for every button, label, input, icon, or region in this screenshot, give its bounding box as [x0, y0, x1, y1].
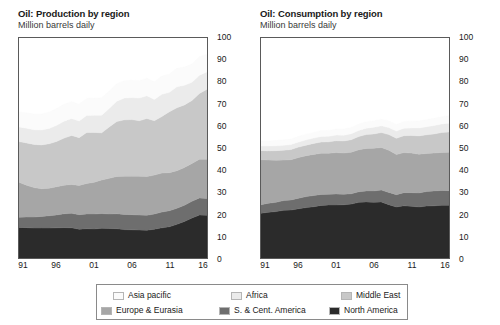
legend-label-europe-eurasia: Europe & Eurasia: [116, 306, 183, 315]
legend-swatch-africa: [231, 292, 242, 300]
consumption-y-tick: 20: [459, 210, 468, 219]
legend-label-africa: Africa: [246, 291, 268, 300]
consumption-chart-subtitle: Million barrels daily: [260, 20, 337, 30]
legend-swatch-europe-eurasia: [101, 307, 112, 315]
production-x-tick: 01: [89, 261, 98, 270]
legend-label-asia-pacific: Asia pacific: [128, 291, 171, 300]
production-chart-title: Oil: Production by region: [18, 8, 130, 19]
production-x-axis: 919601061116: [18, 261, 208, 275]
production-y-tick: 0: [217, 255, 222, 264]
production-y-tick: 100: [217, 33, 231, 42]
chart-legend: Asia pacific Africa Middle East Europe &…: [96, 284, 408, 320]
consumption-y-tick: 70: [459, 99, 468, 108]
legend-item-asia-pacific: Asia pacific: [101, 291, 231, 300]
legend-item-north-america: North America: [329, 306, 398, 315]
legend-label-s-cent-america: S. & Cent. America: [234, 306, 306, 315]
consumption-x-tick: 91: [260, 261, 269, 270]
production-chart-panel: Oil: Production by region Million barrel…: [0, 0, 250, 282]
consumption-y-tick: 30: [459, 188, 468, 197]
production-x-tick: 91: [18, 261, 27, 270]
legend-item-europe-eurasia: Europe & Eurasia: [101, 306, 219, 315]
consumption-y-tick: 40: [459, 166, 468, 175]
legend-row-bottom: Europe & Eurasia S. & Cent. America Nort…: [101, 303, 403, 318]
production-y-axis: 1009080706050403020100: [211, 37, 251, 259]
production-y-tick: 70: [217, 99, 226, 108]
consumption-y-tick: 60: [459, 122, 468, 131]
consumption-x-tick: 16: [440, 261, 449, 270]
production-y-tick: 20: [217, 210, 226, 219]
consumption-plot-area: [260, 37, 450, 259]
legend-item-africa: Africa: [231, 291, 341, 300]
production-chart-subtitle: Million barrels daily: [18, 20, 95, 30]
production-y-tick: 10: [217, 233, 226, 242]
production-plot-area: [18, 37, 208, 259]
consumption-x-tick: 11: [408, 261, 417, 270]
production-y-tick: 60: [217, 122, 226, 131]
consumption-y-tick: 100: [459, 33, 473, 42]
legend-item-middle-east: Middle East: [341, 291, 400, 300]
legend-swatch-middle-east: [341, 292, 352, 300]
production-x-tick: 06: [127, 261, 136, 270]
consumption-x-tick: 01: [331, 261, 340, 270]
consumption-y-axis: 1009080706050403020100: [453, 37, 493, 259]
production-area-svg: [19, 38, 207, 258]
legend-swatch-asia-pacific: [113, 292, 124, 300]
production-y-tick: 30: [217, 188, 226, 197]
production-x-tick: 16: [198, 261, 207, 270]
legend-swatch-north-america: [329, 307, 340, 315]
production-y-tick: 50: [217, 144, 226, 153]
consumption-area-north-america: [261, 202, 449, 258]
consumption-y-tick: 80: [459, 77, 468, 86]
legend-label-north-america: North America: [344, 306, 398, 315]
production-x-tick: 96: [51, 261, 60, 270]
consumption-chart-panel: Oil: Consumption by region Million barre…: [250, 0, 500, 282]
production-x-tick: 11: [166, 261, 175, 270]
legend-label-middle-east: Middle East: [356, 291, 400, 300]
consumption-y-tick: 10: [459, 233, 468, 242]
production-y-tick: 80: [217, 77, 226, 86]
consumption-x-tick: 96: [293, 261, 302, 270]
consumption-y-tick: 90: [459, 55, 468, 64]
consumption-y-tick: 0: [459, 255, 464, 264]
consumption-chart-title: Oil: Consumption by region: [260, 8, 382, 19]
legend-row-top: Asia pacific Africa Middle East: [101, 288, 403, 303]
consumption-x-axis: 919601061116: [260, 261, 450, 275]
production-y-tick: 90: [217, 55, 226, 64]
consumption-area-svg: [261, 38, 449, 258]
production-y-tick: 40: [217, 166, 226, 175]
consumption-y-tick: 50: [459, 144, 468, 153]
consumption-x-tick: 06: [369, 261, 378, 270]
legend-item-s-cent-america: S. & Cent. America: [219, 306, 329, 315]
legend-swatch-s-cent-america: [219, 307, 230, 315]
